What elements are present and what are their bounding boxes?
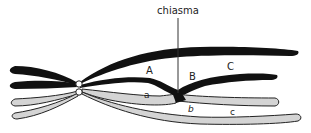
label-b: b	[188, 104, 194, 114]
light-chromatid-arm-a	[82, 89, 178, 105]
label-C: C	[227, 61, 234, 72]
centromere-lower	[76, 89, 82, 95]
centromere-upper	[76, 81, 82, 87]
chiasma-diagram: chiasma A B C a b c	[0, 0, 311, 133]
label-a: a	[144, 90, 150, 100]
label-A: A	[146, 65, 153, 76]
label-B: B	[189, 71, 196, 82]
chiasma-label: chiasma	[157, 5, 199, 16]
label-c: c	[230, 107, 235, 117]
